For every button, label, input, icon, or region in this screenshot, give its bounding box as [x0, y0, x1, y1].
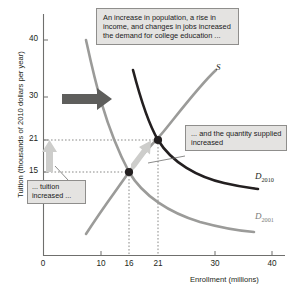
supply-curve-label: S — [216, 62, 221, 72]
tuition-increase-arrow — [42, 140, 57, 172]
x-tick-30: 30 — [205, 259, 225, 268]
x-tick-marks — [101, 251, 272, 256]
chart-figure: 40 30 21 15 10 0 10 16 21 30 40 Tuition … — [0, 0, 292, 290]
x-tick-10: 10 — [91, 259, 111, 268]
new-equilibrium-dot — [154, 136, 162, 144]
y-tick-marks — [44, 40, 49, 201]
x-tick-40: 40 — [262, 259, 282, 268]
demand-shift-arrow — [62, 88, 112, 110]
x-tick-16: 16 — [119, 259, 139, 268]
x-tick-0: 0 — [33, 259, 53, 268]
demand-2001-year: 2001 — [262, 216, 274, 223]
demand-2001-curve-label: D2001 — [255, 211, 274, 223]
quantity-supplied-callout: ... and the quantity supplied increased — [185, 125, 287, 151]
x-tick-21: 21 — [148, 259, 168, 268]
tuition-callout-leader — [55, 166, 68, 180]
demand-2010-year: 2010 — [262, 176, 274, 183]
x-axis-title: Enrollment (millions) — [190, 275, 259, 284]
demand-shift-callout: An increase in population, a rise in inc… — [96, 8, 239, 45]
initial-equilibrium-dot — [125, 168, 133, 176]
y-axis-title: Tuition (thousands of 2010 dollars per y… — [16, 35, 25, 215]
demand-2010-curve-label: D2010 — [255, 171, 274, 183]
quantity-increase-arrow — [131, 141, 151, 173]
tuition-increased-callout: ... tuition increased ... — [27, 180, 86, 204]
